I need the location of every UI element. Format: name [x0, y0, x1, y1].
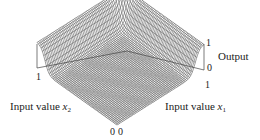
x2-tick-origin: 0	[110, 127, 115, 137]
z-tick-bottom: 0	[207, 63, 212, 73]
x1-axis-label: Input value x1	[165, 101, 226, 114]
x2-axis-prefix: Input value	[10, 100, 63, 112]
x2-axis-label: Input value x2	[10, 101, 71, 114]
x1-axis-prefix: Input value	[165, 100, 218, 112]
surface-plot	[0, 0, 260, 140]
x1-tick-max: 1	[205, 80, 210, 90]
x1-tick-origin: 0	[118, 127, 123, 137]
z-tick-top: 1	[206, 38, 211, 48]
x2-axis-sub: 2	[67, 106, 71, 114]
x2-tick-max: 1	[36, 72, 41, 82]
z-axis-label: Output	[218, 51, 249, 62]
x1-axis-sub: 1	[222, 106, 226, 114]
